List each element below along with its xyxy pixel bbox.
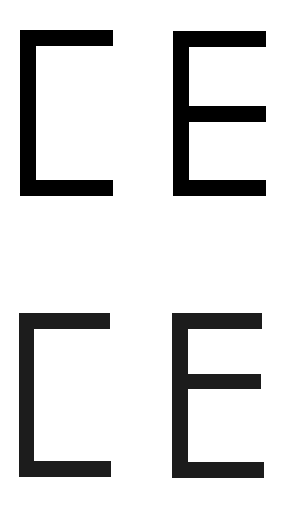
c-vertical-stroke (19, 313, 34, 477)
letter-c-bottom (19, 313, 112, 478)
e-bottom-stroke (173, 180, 266, 196)
letter-c-top (20, 30, 114, 196)
e-middle-stroke (172, 374, 261, 389)
e-middle-stroke (173, 106, 266, 122)
c-bottom-stroke (20, 180, 113, 196)
e-vertical-stroke (172, 313, 188, 478)
letter-e-bottom (172, 313, 265, 479)
c-vertical-stroke (20, 30, 36, 196)
e-bottom-stroke (172, 462, 264, 478)
c-bottom-stroke (19, 461, 111, 477)
letter-e-top (173, 31, 267, 197)
